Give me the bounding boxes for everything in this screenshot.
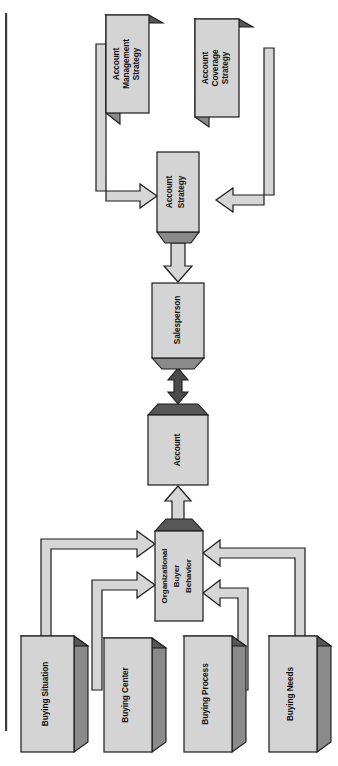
node-account-management-strategy[interactable]: Account Management Strategy (106, 15, 163, 124)
node-label: Buying Situation (40, 662, 50, 726)
node-account[interactable]: Account (148, 404, 208, 485)
node-label: Strategy (131, 47, 141, 80)
node-label: Account (172, 433, 182, 466)
node-label: Buyer (172, 564, 181, 587)
node-label: Organizational (160, 549, 169, 604)
left-margin-rule (5, 13, 7, 731)
node-label: Buying Center (120, 666, 130, 722)
node-buying-process[interactable]: Buying Process (184, 636, 246, 752)
edge-account-strategy-to-salesperson (164, 243, 192, 282)
edge-organizational-buyer-behavior-to-account (165, 486, 191, 521)
flowchart-svg: Account Management Strategy Account Cove… (0, 0, 338, 766)
node-label: Account (200, 51, 210, 84)
node-label: Account (111, 47, 121, 80)
node-buying-needs[interactable]: Buying Needs (269, 636, 331, 752)
node-label: Strategy (220, 51, 230, 84)
node-account-strategy[interactable]: Account Strategy (157, 152, 199, 243)
node-label: Salesperson (172, 296, 182, 344)
node-buying-situation[interactable]: Buying Situation (21, 636, 88, 752)
node-label: Strategy (176, 175, 186, 208)
node-label: Buying Process (200, 663, 210, 725)
node-account-coverage-strategy[interactable]: Account Coverage Strategy (195, 19, 253, 127)
node-label: Buying Needs (285, 666, 295, 721)
node-label: Account (164, 175, 174, 208)
node-buying-center[interactable]: Buying Center (104, 638, 166, 752)
node-label: Behavior (184, 558, 193, 593)
diagram-canvas: Account Management Strategy Account Cove… (0, 0, 338, 766)
edge-salesperson-to-account (168, 368, 188, 404)
node-salesperson[interactable]: Salesperson (152, 283, 204, 369)
node-organizational-buyer-behavior[interactable]: Organizational Buyer Behavior (155, 519, 203, 621)
node-label: Management (121, 39, 131, 89)
node-label: Coverage (210, 49, 220, 86)
